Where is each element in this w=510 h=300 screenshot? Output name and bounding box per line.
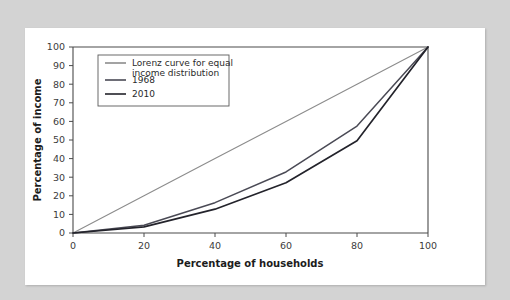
y-tick-label: 30: [53, 172, 65, 183]
y-tick-label: 70: [53, 97, 65, 108]
chart-legend: Lorenz curve for equalincome distributio…: [98, 55, 233, 106]
figure-card: 0102030405060708090100 020406080100 Perc…: [25, 28, 485, 285]
y-tick-label: 60: [53, 116, 65, 127]
x-axis-title: Percentage of households: [177, 258, 324, 269]
x-tick-label: 40: [209, 240, 221, 251]
x-axis: 020406080100: [70, 233, 437, 251]
y-tick-label: 20: [53, 190, 65, 201]
legend-label-3: 2010: [132, 89, 155, 99]
legend-label-1: Lorenz curve for equal: [132, 58, 233, 68]
x-tick-label: 80: [351, 240, 363, 251]
x-tick-label: 0: [70, 240, 76, 251]
legend-label-2: 1968: [132, 75, 155, 85]
y-axis-title: Percentage of income: [32, 78, 43, 201]
y-tick-label: 10: [53, 209, 65, 220]
y-tick-label: 50: [53, 134, 65, 145]
y-tick-label: 100: [47, 41, 65, 52]
x-tick-label: 20: [138, 240, 150, 251]
y-tick-label: 40: [53, 153, 65, 164]
y-tick-label: 0: [59, 227, 65, 238]
y-tick-label: 90: [53, 60, 65, 71]
y-axis: 0102030405060708090100: [47, 41, 73, 238]
y-tick-label: 80: [53, 79, 65, 90]
x-tick-label: 100: [419, 240, 437, 251]
lorenz-curve-chart: 0102030405060708090100 020406080100 Perc…: [25, 28, 485, 285]
x-tick-label: 60: [280, 240, 292, 251]
